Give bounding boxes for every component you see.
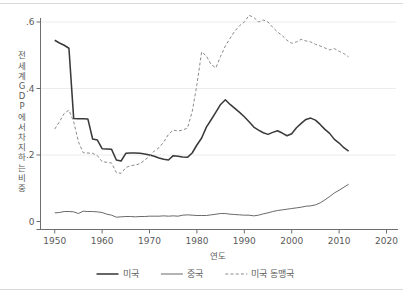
x-axis-title: 연도 xyxy=(210,251,226,261)
series-line xyxy=(55,184,349,217)
x-tick-label: 2020 xyxy=(375,236,398,246)
y-tick-label: .4 xyxy=(26,84,35,94)
y-axis-title-char: 에 xyxy=(18,112,26,122)
y-axis-title: 전세계GDP에서차지하는비중 xyxy=(18,50,26,193)
x-tick-label: 1960 xyxy=(91,236,114,246)
y-axis-title-char: 서 xyxy=(18,122,26,132)
y-axis-title-char: 는 xyxy=(18,163,26,173)
x-tick-label: 2000 xyxy=(280,236,303,246)
x-tick-label: 1970 xyxy=(138,236,161,246)
legend: 미국중국미국 동맹국 xyxy=(97,269,295,279)
line-chart-svg: 0.2.4.6 19501960197019801990200020102020… xyxy=(0,0,403,296)
y-axis-title-char: 하 xyxy=(18,152,26,162)
y-axis-title-char: P xyxy=(19,101,24,111)
chart-figure: 0.2.4.6 19501960197019801990200020102020… xyxy=(0,0,403,296)
frame-bottom-divider xyxy=(0,289,403,290)
gridlines xyxy=(41,22,397,155)
data-series-group xyxy=(55,15,349,217)
y-axis-ticks: 0.2.4.6 xyxy=(26,17,41,227)
y-axis-title-char: 중 xyxy=(18,183,26,193)
series-line xyxy=(55,40,349,161)
y-tick-label: .6 xyxy=(26,17,35,27)
y-tick-label: 0 xyxy=(29,217,35,227)
y-axis-title-char: 세 xyxy=(18,61,26,71)
y-axis-title-char: G xyxy=(19,81,26,91)
x-axis-ticks: 19501960197019801990200020102020 xyxy=(43,230,398,246)
y-axis-title-char: 지 xyxy=(18,142,26,152)
y-axis-title-char: 계 xyxy=(18,71,26,81)
legend-label[interactable]: 중국 xyxy=(187,269,203,279)
y-axis-title-char: 전 xyxy=(18,50,26,60)
x-tick-label: 1950 xyxy=(43,236,66,246)
legend-label[interactable]: 미국 xyxy=(123,269,139,279)
x-axis-title-text: 연도 xyxy=(210,251,226,261)
y-tick-label: .2 xyxy=(26,150,35,160)
y-axis-title-char: 차 xyxy=(18,132,26,142)
x-tick-label: 1980 xyxy=(185,236,208,246)
y-axis-title-char: 비 xyxy=(18,173,26,183)
x-tick-label: 1990 xyxy=(233,236,256,246)
y-axis-title-char: D xyxy=(19,91,26,101)
series-line xyxy=(55,15,349,173)
x-tick-label: 2010 xyxy=(328,236,351,246)
frame-top-divider xyxy=(0,3,403,4)
axis-lines xyxy=(37,18,399,230)
legend-label[interactable]: 미국 동맹국 xyxy=(251,269,294,279)
